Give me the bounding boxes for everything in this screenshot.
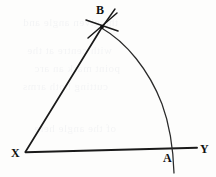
label-ray-end-y: Y bbox=[200, 143, 209, 155]
construction-drawing bbox=[0, 0, 216, 177]
vertex-b-dot bbox=[100, 25, 104, 29]
label-vertex-b: B bbox=[96, 4, 104, 16]
geometry-figure: the given angle and with centre at the p… bbox=[0, 0, 216, 177]
ray-xb-line bbox=[26, 27, 103, 152]
construction-tick-3-icon bbox=[103, 9, 115, 26]
label-vertex-x: X bbox=[11, 147, 20, 159]
label-point-a: A bbox=[163, 152, 172, 164]
